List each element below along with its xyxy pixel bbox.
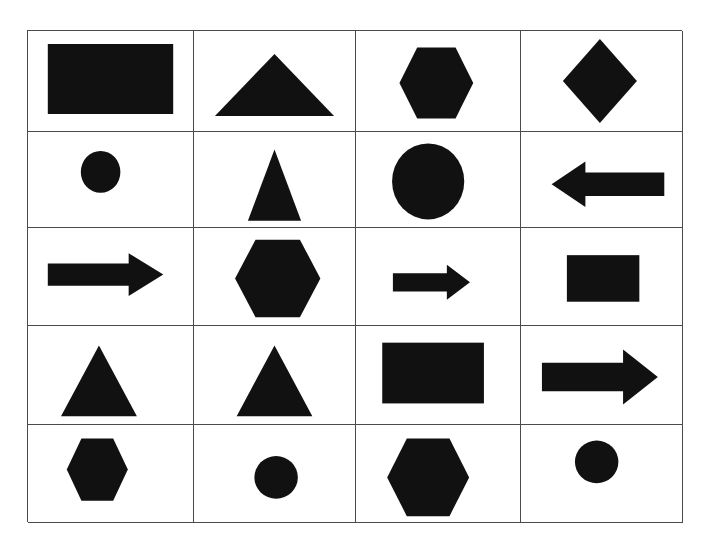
page-root — [0, 0, 711, 548]
shape-triangle-icon — [28, 326, 193, 424]
triangle-shape — [61, 346, 137, 417]
shape-arrow-left-icon — [521, 132, 682, 227]
triangle-shape — [237, 346, 313, 417]
shape-triangle-icon — [194, 31, 355, 131]
arrow-left-shape — [552, 161, 665, 207]
shape-circle-icon — [28, 132, 193, 227]
shape-arrow-right-icon — [356, 228, 520, 325]
arrow-right-shape — [542, 350, 658, 405]
shape-triangle-icon — [194, 132, 355, 227]
grid-cell-r5-c2 — [194, 425, 356, 523]
shape-hexagon-icon — [356, 31, 520, 131]
grid-cell-r2-c4 — [521, 132, 683, 228]
shape-arrow-right-icon — [521, 326, 682, 424]
shape-rectangle-icon — [356, 326, 520, 424]
grid-cell-r3-c3 — [356, 228, 521, 326]
grid-cell-r1-c2 — [194, 31, 356, 132]
hexagon-shape — [387, 439, 469, 517]
shape-circle-icon — [356, 132, 520, 227]
hexagon-shape — [235, 240, 320, 318]
rectangle-shape — [382, 343, 484, 404]
grid-cell-r1-c4 — [521, 31, 683, 132]
grid-cell-r2-c2 — [194, 132, 356, 228]
shape-rectangle-icon — [521, 228, 682, 325]
shape-grid — [27, 30, 682, 522]
shape-hexagon-icon — [356, 425, 520, 522]
triangle-shape — [248, 150, 301, 221]
shape-hexagon-icon — [194, 228, 355, 325]
rectangle-shape — [567, 255, 639, 302]
shape-triangle-icon — [194, 326, 355, 424]
circle-shape — [81, 151, 121, 193]
grid-cell-r5-c1 — [28, 425, 194, 523]
grid-cell-r3-c2 — [194, 228, 356, 326]
circle-shape — [392, 143, 464, 219]
hexagon-shape — [399, 48, 473, 119]
grid-cell-r3-c1 — [28, 228, 194, 326]
grid-cell-r2-c1 — [28, 132, 194, 228]
shape-arrow-right-icon — [28, 228, 193, 325]
shape-rectangle-icon — [28, 31, 193, 131]
grid-cell-r1-c3 — [356, 31, 521, 132]
shape-circle-icon — [194, 425, 355, 522]
arrow-right-shape — [48, 253, 164, 296]
grid-cell-r3-c4 — [521, 228, 683, 326]
grid-cell-r5-c3 — [356, 425, 521, 523]
shape-diamond-icon — [521, 31, 682, 131]
hexagon-shape — [67, 439, 128, 501]
rectangle-shape — [48, 44, 173, 114]
diamond-shape — [563, 39, 637, 123]
grid-cell-r4-c2 — [194, 326, 356, 425]
grid-cell-r5-c4 — [521, 425, 683, 523]
grid-cell-r1-c1 — [28, 31, 194, 132]
grid-cell-r4-c4 — [521, 326, 683, 425]
grid-cell-r2-c3 — [356, 132, 521, 228]
circle-shape — [254, 456, 297, 499]
arrow-right-shape — [393, 265, 470, 300]
grid-cell-r4-c3 — [356, 326, 521, 425]
grid-cell-r4-c1 — [28, 326, 194, 425]
triangle-shape — [215, 54, 334, 116]
shape-hexagon-icon — [28, 425, 193, 522]
circle-shape — [575, 441, 618, 484]
shape-circle-icon — [521, 425, 682, 522]
